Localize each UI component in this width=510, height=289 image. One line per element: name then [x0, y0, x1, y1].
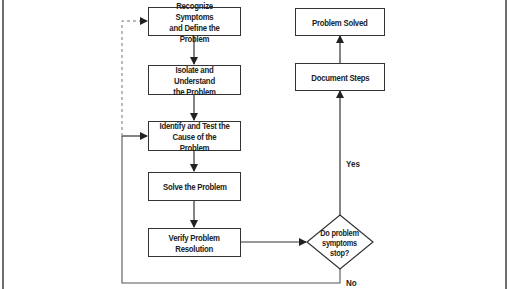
edge-label-yes-text: Yes	[346, 158, 360, 169]
no-feedback-line	[122, 136, 340, 283]
node-document-steps: Document Steps	[295, 63, 385, 91]
node-solved-label: Problem Solved	[312, 17, 367, 28]
dashed-arrowhead	[140, 17, 148, 25]
node-identify-label: Identify and Test the Cause of the Probl…	[157, 120, 232, 153]
node-solve-label: Solve the Problem	[163, 181, 227, 192]
node-problem-solved: Problem Solved	[295, 8, 385, 36]
decision-label: Do problem symptoms stop?	[307, 226, 373, 260]
connector-lines	[0, 0, 510, 289]
node-recognize-label: Recognize Symptoms and Define the Proble…	[157, 0, 232, 44]
decision-label-text: Do problem symptoms stop?	[321, 228, 360, 258]
node-document-label: Document Steps	[311, 72, 369, 83]
edge-label-no: No	[346, 277, 359, 288]
dashed-feedback-line	[122, 21, 147, 136]
node-verify-resolution: Verify Problem Resolution	[148, 228, 241, 257]
edge-label-yes: Yes	[346, 158, 362, 169]
node-verify-label: Verify Problem Resolution	[169, 232, 220, 254]
edge-label-no-text: No	[346, 277, 357, 288]
node-solve-problem: Solve the Problem	[148, 172, 241, 201]
node-isolate-label: Isolate and Understand the Problem	[157, 64, 232, 97]
node-isolate-problem: Isolate and Understand the Problem	[148, 65, 241, 95]
node-identify-cause: Identify and Test the Cause of the Probl…	[148, 121, 241, 151]
node-recognize-symptoms: Recognize Symptoms and Define the Proble…	[148, 7, 241, 36]
